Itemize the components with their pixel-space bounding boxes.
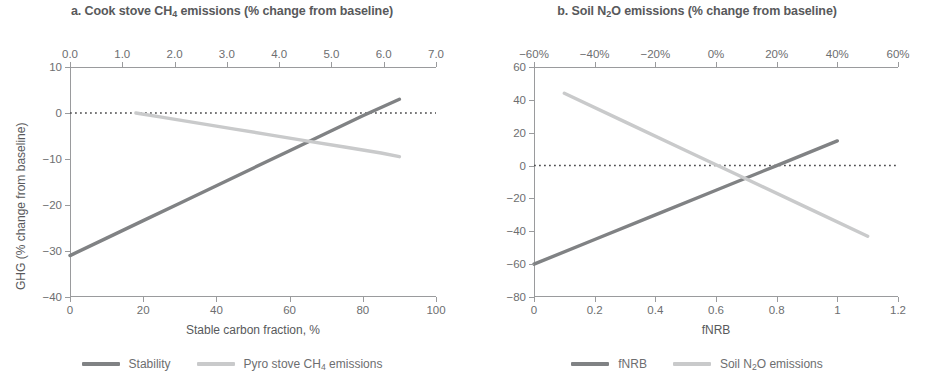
panel-a-title: a. Cook stove CH4 emissions (% change fr… [0,4,464,19]
panel-b-x-tick-label: 0.4 [647,304,663,316]
panel-b-x-tick [716,297,717,302]
panel-a-x-tick-label: 20 [137,304,150,316]
panel-a-top-x-tick-label: 4.0 [271,48,287,60]
panel-a-x-tick-label: 40 [210,304,223,316]
panel-a-y-tick [65,205,70,206]
panel-b-top-x-tick [595,62,596,67]
panel-b-top-x-tick [837,62,838,67]
panel-a-legend-item[interactable]: Pyro stove CH4 emissions [197,357,383,372]
figure-two-panel-ghg-sensitivity: a. Cook stove CH4 emissions (% change fr… [0,0,929,379]
panel-b-y-tick [529,67,534,68]
panel-b-top-x-tick-label: 60% [886,48,909,60]
panel-a-x-axis-title: Stable carbon fraction, % [70,323,436,337]
panel-a-legend-swatch [82,362,120,366]
panel-a-legend-item[interactable]: Stability [82,357,171,371]
panel-b-x-axis-title: fNRB [534,323,898,337]
panel-a-top-x-tick-label: 7.0 [428,48,444,60]
panel-a-series-canvas [70,67,436,297]
panel-b-y-tick-label: 20 [513,127,526,139]
panel-a-x-tick-label: 80 [356,304,369,316]
panel-a-x-tick-label: 100 [426,304,445,316]
panel-a-top-x-tick [70,62,71,67]
panel-b-legend-item[interactable]: Soil N2O emissions [673,357,823,372]
panel-b-x-tick [595,297,596,302]
panel-b-y-tick-label: −20 [506,192,526,204]
panel-a-top-x-tick [279,62,280,67]
panel-b-title-prefix: b. Soil N [557,4,606,18]
panel-b-series-canvas [534,67,898,297]
panel-b-y-tick-label: −60 [506,258,526,270]
panel-b-top-x-tick [898,62,899,67]
panel-b-x-tick-label: 0.8 [769,304,785,316]
panel-a-x-tick [436,297,437,302]
panel-b-top-x-tick-label: −40% [580,48,610,60]
panel-b-y-tick [529,166,534,167]
panel-b-y-tick-label: −40 [506,225,526,237]
panel-b-x-tick [837,297,838,302]
panel-b-series-line [564,93,867,236]
panel-b: b. Soil N2O emissions (% change from bas… [465,0,929,348]
panel-a-y-tick-label: 10 [49,61,62,73]
panel-b-legend-item[interactable]: fNRB [571,357,647,371]
panel-a-x-tick-label: 0 [67,304,73,316]
panel-b-legend-swatch [673,362,711,366]
panel-a-y-tick [65,159,70,160]
panel-b-legend-label: Soil N2O emissions [720,357,823,372]
panel-b-x-tick-label: 0.6 [708,304,724,316]
panel-a-top-x-tick-label: 0.0 [62,48,78,60]
panel-b-top-x-tick-label: −20% [640,48,670,60]
panel-a-x-tick [363,297,364,302]
panel-b-top-x-tick-label: 20% [765,48,788,60]
panel-b-legend-swatch [571,362,609,366]
panel-b-y-tick [529,198,534,199]
panel-a-y-axis-title: GHG (% change from baseline) [14,123,28,290]
panel-a-series-line [136,113,400,157]
panel-a-top-x-tick-label: 1.0 [114,48,130,60]
panel-a-legend-swatch [197,362,235,366]
panel-b-plot-area: fNRB 6040200−20−40−60−8000.20.40.60.811.… [534,67,898,297]
panel-b-y-tick [529,100,534,101]
panel-b-x-tick [777,297,778,302]
panel-b-x-tick-label: 0 [531,304,537,316]
panel-a-x-tick [143,297,144,302]
panel-a-legend: StabilityPyro stove CH4 emissions [0,351,464,377]
panel-a-top-x-tick [436,62,437,67]
panel-a-x-tick-label: 60 [283,304,296,316]
panel-b-top-x-tick [716,62,717,67]
panel-a-x-tick [216,297,217,302]
panel-a-series-line [70,99,399,255]
panel-b-y-tick-label: 0 [520,160,526,172]
panel-a-top-x-tick-label: 5.0 [323,48,339,60]
panel-a-y-tick [65,251,70,252]
panel-a-y-tick-label: 0 [56,107,62,119]
panel-b-y-tick [529,133,534,134]
panel-b-x-tick-label: 0.2 [587,304,603,316]
panel-a: a. Cook stove CH4 emissions (% change fr… [0,0,464,348]
panel-a-x-tick [70,297,71,302]
legend-label-prefix: Pyro stove CH [244,357,321,371]
panel-b-legend-label: fNRB [618,357,647,371]
panel-b-x-tick [898,297,899,302]
panel-b-x-tick [534,297,535,302]
panel-b-top-x-tick-label: 40% [826,48,849,60]
panel-b-legend: fNRBSoil N2O emissions [465,351,929,377]
panel-b-y-tick-label: 40 [513,94,526,106]
legend-label-suffix: emissions [326,357,383,371]
panel-b-top-x-tick-label: −60% [519,48,549,60]
panel-a-top-x-tick-label: 6.0 [376,48,392,60]
panel-b-top-x-tick [534,62,535,67]
legend-label-suffix: O emissions [757,357,823,371]
panel-b-x-tick [655,297,656,302]
panel-b-y-tick [529,231,534,232]
panel-b-series-line [534,141,837,264]
panel-a-title-prefix: a. Cook stove CH [71,4,172,18]
panel-b-x-tick-label: 1 [834,304,840,316]
legend-label-prefix: Soil N [720,357,752,371]
panel-a-legend-label: Pyro stove CH4 emissions [244,357,383,372]
panel-b-x-tick-label: 1.2 [890,304,906,316]
panel-a-y-tick-label: −30 [42,245,62,257]
panel-a-x-tick [290,297,291,302]
panel-a-y-tick-label: −40 [42,291,62,303]
panel-b-title: b. Soil N2O emissions (% change from bas… [465,4,929,19]
panel-b-top-x-tick-label: 0% [708,48,725,60]
